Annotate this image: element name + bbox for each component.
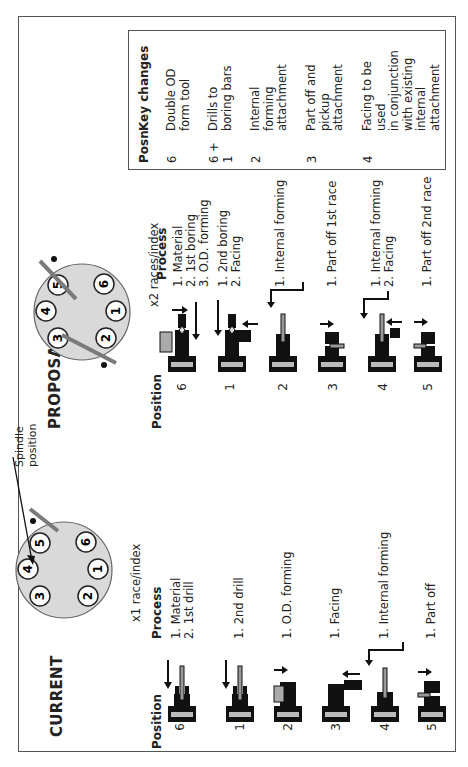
wheel-pos-2: 2: [99, 334, 113, 342]
machine-icon-pos5-part-off: [414, 318, 442, 372]
current-machine-icons: [160, 642, 450, 722]
current-row-process: 1. O.D. forming: [281, 551, 294, 639]
wheel-pos-6: 6: [97, 280, 111, 288]
spindle-position-label: Spindle position: [14, 423, 39, 467]
proposal-row-process: 1. Internal forming: [274, 180, 287, 287]
machine-icon-pos4-internal-form: [365, 642, 403, 722]
current-spindle-wheel: 3 4 5 2 1 6: [8, 507, 128, 627]
proposal-row-process: 1. 2nd boring2. Facing: [217, 210, 243, 287]
proposal-row-position: 2: [276, 377, 290, 397]
current-title: CURRENT: [48, 656, 66, 737]
diagram-rotated-stage: CURRENT 3 4 5 2 1 6 Spindle position x1 …: [0, 0, 468, 767]
proposal-machine-icons: [160, 292, 450, 372]
machine-icon-pos2-od-form: [274, 666, 302, 722]
proposal-row-process: 1. Internal forming2. Facing: [370, 180, 396, 287]
proposal-row-process: 1. Part off 1st race: [326, 181, 339, 287]
wheel-pos-3: 3: [33, 592, 47, 600]
proposal-row-position: 3: [326, 377, 340, 397]
wheel-pos-1: 1: [91, 565, 105, 573]
wheel-pos-1: 1: [109, 307, 123, 315]
proposal-row-process: 1. Part off 2nd race: [421, 177, 434, 287]
current-row-process: 1. Internal forming: [378, 532, 391, 639]
machine-icon-pos2-internal-form: [267, 282, 303, 372]
current-row-process: 1. 2nd drill: [233, 577, 246, 639]
wheel-pos-4: 4: [21, 565, 35, 573]
proposal-position-header: Position: [150, 374, 164, 429]
machine-icon-pos6-drill: [164, 660, 196, 722]
machine-icon-pos1-drill: [222, 660, 254, 722]
proposal-process-header: Process: [155, 228, 169, 281]
proposal-row-position: 1: [223, 377, 237, 397]
current-rate: x1 race/index: [130, 544, 143, 622]
wheel-pos-4: 4: [39, 307, 53, 315]
current-row-process: 1. Part off: [425, 583, 438, 639]
wheel-pos-6: 6: [79, 538, 93, 546]
wheel-pos-2: 2: [81, 592, 95, 600]
key-col-posn: Posn: [137, 130, 151, 163]
current-row-process: 1. Facing: [329, 588, 342, 639]
machine-icon-pos3-facing: [322, 670, 362, 722]
machine-icon-pos6-bore-od: [160, 302, 200, 372]
key-col-changes: Key changes: [137, 46, 151, 131]
machine-icon-pos3-part-off: [318, 320, 346, 372]
current-process-header: Process: [150, 587, 164, 640]
proposal-spindle-wheel: 3 4 5 2 1 6: [26, 249, 146, 369]
proposal-row-position: 5: [421, 377, 435, 397]
machine-icon-pos1-bore-face: [214, 300, 258, 372]
proposal-pos4-arrow-icon: [360, 287, 400, 327]
proposal-row-process: 1. Material2. 1st boring3. O.D. forming: [172, 199, 211, 287]
proposal-row-position: 6: [175, 377, 189, 397]
proposal-row-position: 4: [376, 377, 390, 397]
wheel-pos-5: 5: [33, 539, 47, 547]
key-changes-table: Posn Key changes 6 Double ODform tool 6 …: [128, 30, 446, 170]
current-row-process: 1. Material2. 1st drill: [170, 578, 196, 639]
machine-icon-pos5-part-off: [418, 668, 446, 722]
